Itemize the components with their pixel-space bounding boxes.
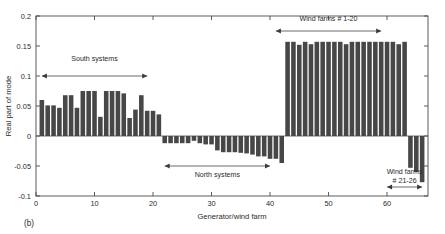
y-axis-tick-label: 0.1 xyxy=(21,72,31,81)
bar xyxy=(279,136,284,163)
bar xyxy=(51,105,56,136)
bar xyxy=(350,42,355,136)
annotation-label-wind-farms-21-26-line1: Wind farms xyxy=(387,168,423,176)
x-axis-tick-label: 40 xyxy=(266,199,274,208)
panel-label: (b) xyxy=(24,219,34,228)
bar xyxy=(186,136,191,143)
bar xyxy=(233,136,238,152)
bar xyxy=(180,136,185,143)
bar xyxy=(227,136,232,152)
x-axis-tick-label: 60 xyxy=(383,199,391,208)
annotation-arrow-wind-farms-1-20 xyxy=(276,29,381,34)
bar xyxy=(104,91,109,136)
bar xyxy=(297,45,302,136)
bar xyxy=(151,111,156,136)
bar xyxy=(250,136,255,155)
bar xyxy=(320,42,325,136)
bar xyxy=(174,136,179,143)
bar xyxy=(326,42,331,136)
bar xyxy=(63,95,68,136)
y-axis-title: Real part of mode xyxy=(4,76,13,136)
bar xyxy=(309,44,314,136)
bar xyxy=(168,136,173,143)
bar xyxy=(356,42,361,136)
bar xyxy=(262,136,267,156)
bar xyxy=(244,136,249,153)
bar xyxy=(338,42,343,136)
annotation-label-wind-farms-1-20: Wind farms # 1-20 xyxy=(300,15,358,23)
bar xyxy=(75,108,80,136)
y-axis-tick-label: 0.05 xyxy=(17,102,31,111)
y-axis-tick-label: 0.15 xyxy=(17,42,31,51)
bar xyxy=(238,136,243,153)
bar xyxy=(116,91,121,136)
annotation-label-south-systems: South systems xyxy=(71,55,118,63)
bar xyxy=(373,42,378,136)
y-axis-tick-label: -0.05 xyxy=(14,162,31,171)
annotation-arrow-north-systems xyxy=(165,164,270,169)
bar xyxy=(92,91,97,136)
x-axis-tick-label: 10 xyxy=(90,199,98,208)
bar xyxy=(133,110,138,136)
bar xyxy=(268,136,273,159)
bar xyxy=(344,44,349,136)
bar xyxy=(192,136,197,141)
bar xyxy=(402,42,407,136)
bar xyxy=(274,136,279,159)
x-axis-title: Generator/wind farm xyxy=(197,212,266,221)
bar xyxy=(110,91,115,136)
bar xyxy=(408,136,413,168)
annotation-label-north-systems: North systems xyxy=(195,171,241,179)
bar xyxy=(303,42,308,136)
bar xyxy=(81,91,86,136)
x-axis-tick-label: 20 xyxy=(149,199,157,208)
bar xyxy=(86,91,91,136)
bar xyxy=(209,136,214,144)
bar xyxy=(391,42,396,136)
bar xyxy=(385,42,390,136)
bar xyxy=(221,136,226,152)
bar xyxy=(40,100,45,136)
bar xyxy=(396,44,401,136)
bar xyxy=(127,118,132,136)
bar xyxy=(139,95,144,136)
bar xyxy=(157,114,162,136)
bar xyxy=(379,42,384,136)
bar xyxy=(57,108,62,136)
y-axis-tick-label: -0.1 xyxy=(18,192,31,201)
bar xyxy=(69,95,74,136)
bar xyxy=(332,42,337,136)
x-axis-tick-label: 0 xyxy=(34,199,38,208)
bar xyxy=(45,105,50,136)
bar xyxy=(98,117,103,136)
bar xyxy=(256,136,261,156)
annotation-label-wind-farms-21-26-line2: # 21-26 xyxy=(393,177,417,185)
figure-panel: -0.1-0.0500.050.10.150.20102030405060Gen… xyxy=(0,0,445,234)
bar xyxy=(285,42,290,136)
bar xyxy=(121,93,126,136)
bar xyxy=(315,42,320,136)
bar xyxy=(145,111,150,136)
bar xyxy=(203,136,208,144)
bar xyxy=(198,136,203,143)
annotation-arrow-south-systems xyxy=(42,74,147,79)
bar xyxy=(414,136,419,172)
y-axis-tick-label: 0 xyxy=(27,132,31,141)
bar xyxy=(367,42,372,136)
x-axis-tick-label: 50 xyxy=(324,199,332,208)
bar-chart: -0.1-0.0500.050.10.150.20102030405060Gen… xyxy=(0,0,445,234)
bar xyxy=(361,42,366,136)
bar xyxy=(291,42,296,136)
y-axis-tick-label: 0.2 xyxy=(21,12,31,21)
bar xyxy=(215,136,220,150)
bar xyxy=(162,136,167,143)
annotation-arrow-wind-farms-21-26 xyxy=(387,185,422,190)
x-axis-tick-label: 30 xyxy=(207,199,215,208)
